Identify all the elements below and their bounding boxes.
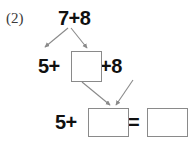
combine-left-arrow: [82, 82, 110, 105]
decompose-left-arrow: [45, 28, 68, 47]
combine-right-arrow: [116, 80, 133, 105]
worksheet-problem: (2) 7+8 5+ +8 5+ =: [0, 0, 196, 143]
arrow-layer: [0, 0, 196, 143]
decompose-right-arrow: [71, 28, 87, 48]
